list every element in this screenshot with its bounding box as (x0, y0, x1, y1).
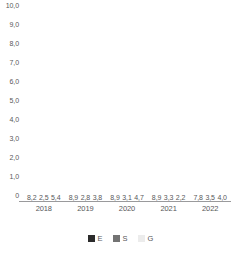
y-axis-tick-label: 7,0 (10, 59, 19, 66)
bar-value-label: 8,9 (69, 194, 78, 201)
bar-value-label: 4,7 (134, 194, 143, 201)
bar-group: 7,83,54,0 (189, 12, 231, 202)
y-axis-tick-label: 1,0 (10, 173, 19, 180)
bar-value-label: 8,9 (152, 194, 161, 201)
chart-legend: ESG (0, 234, 241, 243)
bar-group: 8,93,32,2 (148, 12, 190, 202)
y-axis-tick-label: 5,0 (10, 97, 19, 104)
bar-value-label: 7,8 (193, 194, 202, 201)
x-axis-label-2022: 2022 (189, 204, 231, 213)
bar-value-label: 8,9 (110, 194, 119, 201)
bar-value-label: 5,4 (51, 194, 60, 201)
y-axis-tick-label: 8,0 (10, 40, 19, 47)
legend-swatch-icon (88, 235, 95, 242)
legend-swatch-icon (138, 235, 145, 242)
bar-value-label: 2,2 (176, 194, 185, 201)
x-axis-label-2019: 2019 (65, 204, 107, 213)
bar-group: 8,93,14,7 (106, 12, 148, 202)
x-axis-line (19, 201, 231, 202)
x-axis-label-2021: 2021 (148, 204, 190, 213)
legend-item-g[interactable]: G (138, 234, 154, 243)
bar-value-label: 3,1 (122, 194, 131, 201)
bar-group: 8,92,83,8 (65, 12, 107, 202)
grouped-bar-chart: 10,09,08,07,06,05,04,03,02,01,00 8,22,55… (0, 0, 241, 255)
y-axis-tick-label: 10,0 (6, 2, 19, 9)
legend-swatch-icon (113, 235, 120, 242)
y-axis-tick-label: 9,0 (10, 21, 19, 28)
legend-label: E (98, 234, 103, 243)
legend-label: G (148, 234, 154, 243)
bar-value-label: 2,8 (81, 194, 90, 201)
bar-value-label: 2,5 (39, 194, 48, 201)
y-axis-tick-label: 6,0 (10, 78, 19, 85)
legend-label: S (123, 234, 128, 243)
y-axis-tick-label: 0 (15, 192, 19, 199)
bar-value-label: 4,0 (217, 194, 226, 201)
y-axis-tick-label: 2,0 (10, 154, 19, 161)
y-axis-tick-label: 4,0 (10, 116, 19, 123)
bar-value-label: 3,3 (164, 194, 173, 201)
bar-value-label: 8,2 (27, 194, 36, 201)
bar-value-label: 3,8 (93, 194, 102, 201)
legend-item-e[interactable]: E (88, 234, 103, 243)
legend-item-s[interactable]: S (113, 234, 128, 243)
x-axis-category-labels: 20182019202020212022 (23, 204, 231, 213)
x-axis-label-2020: 2020 (106, 204, 148, 213)
y-axis-tick-label: 3,0 (10, 135, 19, 142)
bar-value-label: 3,5 (205, 194, 214, 201)
plot-area: 10,09,08,07,06,05,04,03,02,01,00 8,22,55… (23, 12, 231, 202)
bar-group: 8,22,55,4 (23, 12, 65, 202)
x-axis-label-2018: 2018 (23, 204, 65, 213)
bar-groups: 8,22,55,48,92,83,88,93,14,78,93,32,27,83… (23, 12, 231, 202)
